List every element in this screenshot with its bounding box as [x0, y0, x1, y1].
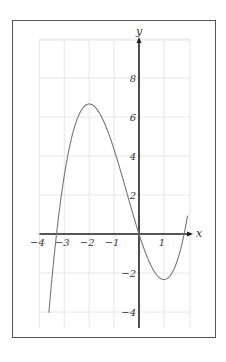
x-axis-label: x — [196, 227, 203, 240]
function-graph: −4−3−2−11−4−22468xy — [0, 0, 226, 362]
y-tick-label: −4 — [121, 307, 136, 318]
x-tick-label: −4 — [30, 237, 45, 248]
x-tick-label: −1 — [105, 237, 120, 248]
y-tick-label: 2 — [129, 190, 136, 201]
y-tick-label: 8 — [130, 73, 136, 84]
y-tick-label: −2 — [121, 268, 136, 279]
y-tick-label: 6 — [130, 112, 137, 123]
series-curve — [49, 104, 188, 313]
x-tick-label: 1 — [159, 237, 165, 248]
tick-labels: −4−3−2−11−4−22468xy — [30, 25, 203, 318]
y-axis-label: y — [135, 25, 143, 38]
y-tick-label: 4 — [129, 151, 136, 162]
grid — [39, 39, 190, 328]
x-tick-label: −2 — [80, 237, 95, 248]
curve-layer — [49, 104, 188, 313]
x-tick-label: −3 — [55, 237, 70, 248]
axes — [39, 37, 193, 328]
